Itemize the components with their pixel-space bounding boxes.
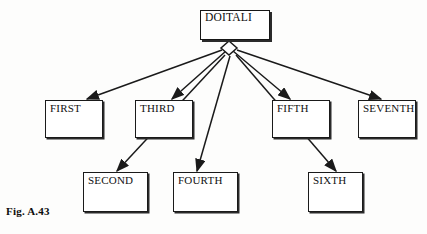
node-box-first[interactable]: FIRST — [45, 100, 103, 138]
figure-canvas: DOITALI FIRSTTHIRDFIFTHSEVENTHSECONDFOUR… — [0, 0, 427, 234]
node-label-fifth: FIFTH — [277, 102, 309, 114]
node-box-fourth[interactable]: FOURTH — [173, 172, 238, 212]
node-label-seventh: SEVENTH — [363, 102, 415, 114]
figure-caption: Fig. A.43 — [6, 205, 50, 217]
edge-group — [87, 50, 381, 171]
node-label-second: SECOND — [88, 174, 133, 186]
node-label-sixth: SIXTH — [313, 174, 346, 186]
node-box-fifth[interactable]: FIFTH — [272, 100, 330, 138]
node-box-seventh[interactable]: SEVENTH — [358, 100, 416, 138]
edge-doitali-to-seventh — [237, 50, 381, 99]
node-box-sixth[interactable]: SIXTH — [308, 172, 363, 212]
node-label-root: DOITALI — [205, 11, 252, 23]
node-label-first: FIRST — [50, 102, 81, 114]
node-box-third[interactable]: THIRD — [135, 100, 193, 138]
edge-doitali-to-first — [87, 50, 222, 99]
node-box-second[interactable]: SECOND — [83, 172, 148, 212]
node-label-third: THIRD — [140, 102, 175, 114]
node-label-fourth: FOURTH — [178, 174, 223, 186]
node-box-root[interactable]: DOITALI — [200, 10, 270, 40]
